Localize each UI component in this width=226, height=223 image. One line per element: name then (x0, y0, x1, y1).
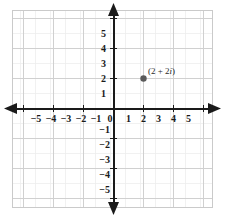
x-tick-label--3: −3 (61, 113, 72, 124)
x-axis-right-arrowhead (208, 103, 221, 114)
x-tick-label--2: −2 (76, 113, 87, 124)
x-tick-label--4: −4 (46, 113, 57, 124)
plotted-point-marker (140, 75, 146, 81)
y-tick-label--5: −5 (99, 184, 110, 195)
x-tick-label-4: 4 (171, 113, 176, 124)
x-tick-label--1: −1 (91, 113, 102, 124)
y-tick-label-2: 2 (101, 73, 106, 84)
y-axis-positive-tick-labels: 5 4 3 2 1 (101, 28, 106, 99)
y-axis-bottom-arrowhead (108, 202, 119, 215)
plotted-point-label: (2 + 2i) (148, 66, 175, 76)
y-tick-label--3: −3 (99, 154, 110, 165)
x-tick-label-1: 1 (126, 113, 131, 124)
y-tick-label-3: 3 (101, 58, 106, 69)
y-tick-label-1: 1 (101, 88, 106, 99)
point-label-prefix: (2 + 2 (148, 66, 170, 76)
x-tick-label--5: −5 (31, 113, 42, 124)
coordinate-plane-svg: −5 −4 −3 −2 −1 0 1 2 3 4 5 5 4 3 2 1 −1 … (0, 0, 226, 223)
y-axis-negative-tick-labels: −1 −2 −3 −4 −5 (99, 124, 110, 195)
x-tick-label-3: 3 (156, 113, 161, 124)
y-tick-label--1: −1 (99, 124, 110, 135)
x-tick-label-2: 2 (141, 113, 146, 124)
point-label-suffix: ) (172, 66, 175, 76)
x-axis-left-arrowhead (4, 103, 17, 114)
x-tick-label-5: 5 (186, 113, 191, 124)
origin-label: 0 (108, 113, 113, 124)
y-axis-top-arrowhead (108, 3, 119, 16)
y-tick-label--4: −4 (99, 169, 110, 180)
y-tick-label-4: 4 (101, 43, 106, 54)
coordinate-plane-figure: −5 −4 −3 −2 −1 0 1 2 3 4 5 5 4 3 2 1 −1 … (0, 0, 226, 223)
x-axis-negative-tick-labels: −5 −4 −3 −2 −1 (31, 113, 102, 124)
y-tick-label--2: −2 (99, 139, 110, 150)
y-tick-label-5: 5 (101, 28, 106, 39)
